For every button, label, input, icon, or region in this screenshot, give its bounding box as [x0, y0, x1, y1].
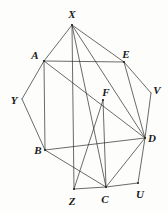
vertex-label-x: X — [68, 9, 75, 20]
vertex-label-f: F — [102, 87, 109, 98]
edge-group — [22, 25, 151, 189]
edge-x-e — [72, 25, 124, 62]
vertex-point-b — [44, 149, 46, 151]
vertex-label-b: B — [34, 145, 41, 156]
vertex-point-d — [144, 137, 146, 139]
edge-x-d — [72, 25, 145, 138]
edge-a-e — [44, 61, 124, 62]
vertex-point-z — [73, 188, 75, 190]
edge-e-d — [124, 62, 145, 138]
edge-y-b — [22, 99, 45, 150]
figure-canvas — [0, 0, 168, 213]
edge-b-d — [45, 138, 145, 150]
vertex-label-e: E — [122, 49, 129, 60]
vertex-label-d: D — [148, 133, 156, 144]
vertex-label-a: A — [31, 50, 38, 61]
vertex-point-x — [71, 24, 73, 26]
vertex-point-u — [137, 182, 139, 184]
edge-b-c — [45, 150, 106, 187]
vertex-dot-group — [43, 24, 146, 190]
edge-a-b — [44, 61, 45, 150]
edge-a-y — [22, 61, 44, 99]
edge-x-a — [44, 25, 72, 61]
vertex-point-f — [102, 99, 104, 101]
vertex-label-y: Y — [11, 95, 18, 106]
edge-x-z — [72, 25, 74, 189]
geometry-figure: XAEVYFDBZCU — [0, 0, 168, 213]
edge-c-d — [106, 138, 145, 187]
vertex-point-c — [105, 186, 107, 188]
vertex-label-v: V — [153, 85, 160, 96]
edge-z-c — [74, 187, 106, 189]
vertex-point-e — [123, 61, 125, 63]
edge-u-d — [138, 138, 145, 183]
vertex-label-z: Z — [69, 196, 76, 207]
edge-c-u — [106, 183, 138, 187]
vertex-point-a — [43, 60, 45, 62]
vertex-label-c: C — [101, 194, 108, 205]
vertex-label-u: U — [136, 189, 144, 200]
